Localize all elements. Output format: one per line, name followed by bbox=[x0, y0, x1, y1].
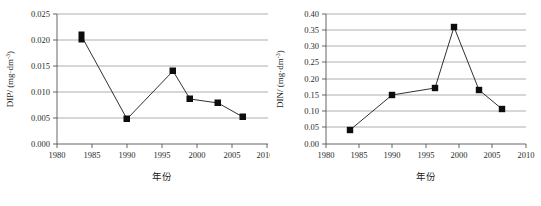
dip-y-axis-title: DIP/ (mg·dm-3) bbox=[5, 51, 15, 107]
y-ticklabel-0.015: 0.015 bbox=[31, 61, 50, 71]
x-axis-title: 年份 bbox=[416, 171, 436, 182]
y-ticklabel-0.25: 0.25 bbox=[304, 57, 319, 67]
y-ticklabel-0.00: 0.00 bbox=[304, 139, 319, 149]
din-y-axis-title: DIN/ (mg·dm-3) bbox=[275, 50, 285, 108]
din-series-line bbox=[350, 27, 502, 130]
x-ticklabel-1985: 1985 bbox=[84, 150, 101, 160]
x-ticklabel-2010: 2010 bbox=[518, 150, 535, 160]
x-ticklabel-1985: 1985 bbox=[351, 150, 368, 160]
x-ticklabel-2000: 2000 bbox=[451, 150, 468, 160]
y-axis-title-suffix: ) bbox=[275, 50, 285, 53]
dip-axes bbox=[57, 14, 268, 144]
chart-panel-dip: 0.025 0.020 0.015 0.010 0.005 0.000 1980… bbox=[0, 0, 270, 206]
dip-x-tick-marks bbox=[57, 144, 267, 148]
data-point-1996.5 bbox=[432, 85, 438, 91]
dip-y-tick-labels: 0.025 0.020 0.015 0.010 0.005 0.000 bbox=[31, 9, 50, 149]
y-ticklabel-0.20: 0.20 bbox=[304, 74, 319, 84]
x-ticklabel-2005: 2005 bbox=[224, 150, 241, 160]
y-ticklabel-0.05: 0.05 bbox=[304, 122, 319, 132]
din-x-tick-marks bbox=[326, 144, 526, 148]
din-x-tick-labels: 1980 1985 1990 1995 2000 2005 2010 bbox=[318, 150, 535, 160]
x-ticklabel-1980: 1980 bbox=[318, 150, 335, 160]
y-ticklabel-0.10: 0.10 bbox=[304, 106, 319, 116]
din-chart-svg: 0.40 0.35 0.30 0.25 0.20 0.15 0.10 0.05 … bbox=[270, 0, 540, 206]
dip-series-line bbox=[82, 37, 243, 119]
svg-text:DIP/ (mg·dm-3): DIP/ (mg·dm-3) bbox=[5, 51, 15, 107]
data-point-2006.4 bbox=[240, 114, 247, 121]
din-y-tick-marks bbox=[322, 14, 326, 144]
x-ticklabel-1995: 1995 bbox=[418, 150, 435, 160]
y-ticklabel-0.30: 0.30 bbox=[304, 41, 319, 51]
data-point-1983.6 bbox=[79, 32, 85, 43]
data-point-1990 bbox=[389, 92, 395, 98]
dip-x-tick-labels: 1980 1985 1990 1995 2000 2005 2010 bbox=[49, 150, 271, 160]
data-point-2003 bbox=[215, 100, 222, 107]
data-point-2003 bbox=[476, 87, 482, 93]
y-ticklabel-0.005: 0.005 bbox=[31, 113, 50, 123]
x-ticklabel-2000: 2000 bbox=[189, 150, 206, 160]
x-ticklabel-1990: 1990 bbox=[384, 150, 401, 160]
dip-series bbox=[79, 32, 247, 123]
y-ticklabel-0.020: 0.020 bbox=[31, 35, 50, 45]
data-point-1999.2 bbox=[451, 24, 457, 30]
data-point-1983.6 bbox=[347, 127, 353, 133]
data-point-1999 bbox=[187, 96, 194, 103]
data-point-2006.4 bbox=[499, 106, 505, 112]
y-ticklabel-0.000: 0.000 bbox=[31, 139, 50, 149]
y-axis-title-suffix: ) bbox=[5, 51, 15, 54]
data-point-1990 bbox=[124, 116, 131, 123]
data-point-1996.5 bbox=[170, 68, 177, 75]
y-ticklabel-0.025: 0.025 bbox=[31, 9, 50, 19]
x-ticklabel-1995: 1995 bbox=[154, 150, 171, 160]
y-axis-title-text: DIN/ (mg·dm bbox=[275, 58, 285, 108]
din-y-tick-labels: 0.40 0.35 0.30 0.25 0.20 0.15 0.10 0.05 … bbox=[304, 9, 319, 149]
x-ticklabel-1980: 1980 bbox=[49, 150, 66, 160]
y-ticklabel-0.35: 0.35 bbox=[304, 25, 319, 35]
dip-y-tick-marks bbox=[53, 14, 57, 144]
dip-gridlines bbox=[57, 14, 268, 118]
y-ticklabel-0.010: 0.010 bbox=[31, 87, 50, 97]
y-ticklabel-0.40: 0.40 bbox=[304, 9, 319, 19]
x-ticklabel-2010: 2010 bbox=[257, 150, 271, 160]
x-ticklabel-1990: 1990 bbox=[119, 150, 136, 160]
dual-line-chart-figure: 0.025 0.020 0.015 0.010 0.005 0.000 1980… bbox=[0, 0, 541, 206]
chart-panel-din: 0.40 0.35 0.30 0.25 0.20 0.15 0.10 0.05 … bbox=[270, 0, 540, 206]
din-gridlines bbox=[326, 14, 526, 127]
dip-chart-svg: 0.025 0.020 0.015 0.010 0.005 0.000 1980… bbox=[0, 0, 270, 206]
x-axis-title: 年份 bbox=[152, 171, 172, 182]
x-ticklabel-2005: 2005 bbox=[484, 150, 501, 160]
din-series bbox=[347, 24, 505, 133]
y-axis-title-text: DIP/ (mg·dm bbox=[5, 59, 15, 107]
y-ticklabel-0.15: 0.15 bbox=[304, 90, 319, 100]
svg-text:DIN/ (mg·dm-3): DIN/ (mg·dm-3) bbox=[275, 50, 285, 108]
